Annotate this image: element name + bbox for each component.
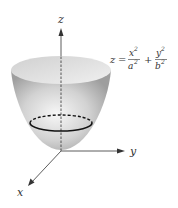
z-axis-label: z [57,13,64,26]
z-axis-arrowhead [59,28,64,36]
term2-denominator-exponent: 2 [160,58,165,65]
term1-denominator: a [128,61,133,71]
equation: z = x 2 a 2 + y 2 b 2 [109,45,167,71]
x-axis [31,151,61,183]
equation-equals: = [118,54,126,65]
x-axis-arrowhead [28,179,35,187]
paraboloid-diagram: z y x z = x 2 a 2 + y 2 b 2 [0,0,178,208]
x-axis-label: x [17,186,24,199]
term1-numerator-exponent: 2 [133,45,138,52]
y-axis-label: y [129,145,137,158]
y-axis-arrowhead [117,149,125,154]
term1-denominator-exponent: 2 [133,58,138,65]
equation-lhs: z [109,54,116,65]
term2-numerator-exponent: 2 [160,45,165,52]
equation-plus: + [144,54,152,65]
